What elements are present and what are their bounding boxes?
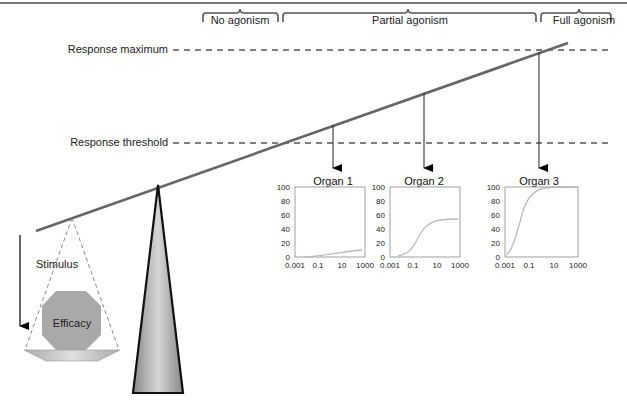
label-response-maximum: Response maximum [68, 43, 168, 55]
label-stimulus: Stimulus [36, 258, 79, 270]
svg-text:80: 80 [376, 197, 385, 206]
svg-text:0.001: 0.001 [380, 261, 401, 270]
svg-text:0.001: 0.001 [285, 261, 306, 270]
svg-text:10: 10 [433, 261, 442, 270]
svg-text:0.001: 0.001 [495, 261, 516, 270]
svg-text:40: 40 [491, 225, 500, 234]
svg-text:40: 40 [376, 225, 385, 234]
label-response-threshold: Response threshold [70, 136, 168, 148]
svg-text:100: 100 [487, 183, 501, 192]
agonism-balance-diagram: No agonism Partial agonism Full agonism … [0, 0, 627, 403]
svg-text:100: 100 [372, 183, 386, 192]
svg-text:60: 60 [376, 211, 385, 220]
svg-text:1000: 1000 [356, 261, 374, 270]
svg-text:0.1: 0.1 [523, 261, 535, 270]
organ-1-title: Organ 1 [313, 175, 353, 187]
scale-pan [24, 350, 120, 361]
organ-3-title: Organ 3 [519, 175, 559, 187]
svg-text:20: 20 [376, 239, 385, 248]
svg-text:20: 20 [491, 239, 500, 248]
fulcrum [133, 185, 183, 393]
svg-text:1000: 1000 [451, 261, 469, 270]
label-efficacy: Efficacy [53, 317, 92, 329]
organ-2-title: Organ 2 [404, 175, 444, 187]
organ-2-chart: Organ 2 100 80 60 40 20 0 0.001 0.1 10 1… [372, 175, 470, 270]
svg-text:40: 40 [281, 225, 290, 234]
svg-text:80: 80 [491, 197, 500, 206]
label-partial-agonism: Partial agonism [372, 14, 448, 26]
label-full-agonism: Full agonism [553, 14, 615, 26]
svg-text:100: 100 [277, 183, 291, 192]
svg-text:0.1: 0.1 [312, 261, 324, 270]
svg-text:0.1: 0.1 [407, 261, 419, 270]
svg-text:20: 20 [281, 239, 290, 248]
organ-1-chart: Organ 1 100 80 60 40 20 0 0.001 0.1 10 1… [277, 175, 375, 270]
svg-text:60: 60 [491, 211, 500, 220]
svg-text:60: 60 [281, 211, 290, 220]
svg-text:10: 10 [338, 261, 347, 270]
svg-text:10: 10 [550, 261, 559, 270]
organ-3-chart: Organ 3 100 80 60 40 20 0 0.001 0.1 10 1… [487, 175, 588, 270]
svg-text:80: 80 [281, 197, 290, 206]
label-no-agonism: No agonism [211, 14, 270, 26]
svg-text:1000: 1000 [569, 261, 587, 270]
